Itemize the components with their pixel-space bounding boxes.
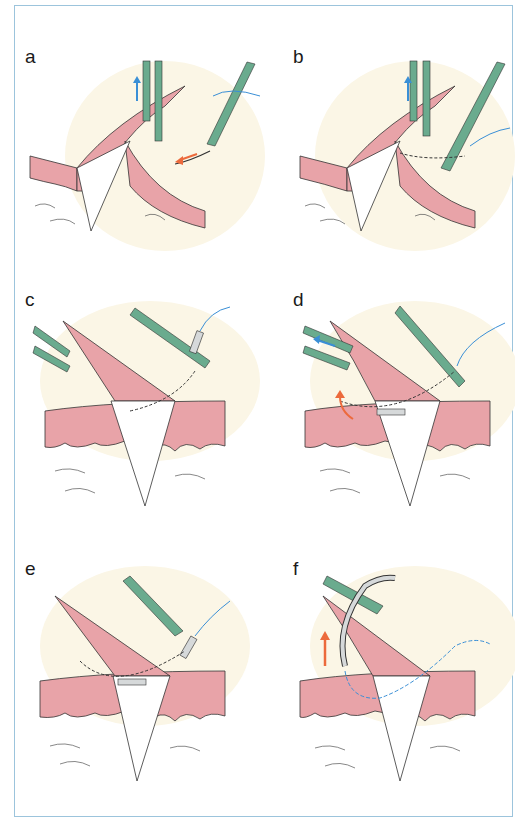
- panel-b: b: [265, 6, 515, 271]
- panel-c: c: [15, 271, 265, 536]
- panel-e: e: [15, 536, 265, 801]
- panel-f: f: [265, 536, 515, 801]
- panel-f-illustration: [265, 536, 515, 816]
- panel-c-illustration: [15, 271, 265, 536]
- panel-d: d: [265, 271, 515, 536]
- figure-frame: a b: [14, 5, 513, 817]
- panel-e-illustration: [15, 536, 265, 816]
- panel-d-illustration: [265, 271, 515, 536]
- panel-a: a: [15, 6, 265, 271]
- panel-b-illustration: [265, 6, 515, 271]
- panel-a-illustration: [15, 6, 265, 271]
